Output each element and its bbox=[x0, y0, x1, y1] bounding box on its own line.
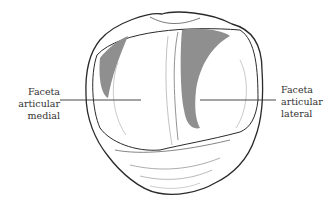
label-medial-line2: articular bbox=[18, 98, 60, 110]
label-medial-line1: Faceta bbox=[18, 86, 60, 98]
label-lateral-line1: Faceta bbox=[281, 84, 323, 96]
label-lateral-line3: lateral bbox=[281, 108, 323, 120]
label-lateral-line2: articular bbox=[281, 96, 323, 108]
label-lateral-facet: Faceta articular lateral bbox=[281, 84, 323, 120]
label-medial-facet: Faceta articular medial bbox=[18, 86, 60, 122]
label-medial-line3: medial bbox=[18, 110, 60, 122]
